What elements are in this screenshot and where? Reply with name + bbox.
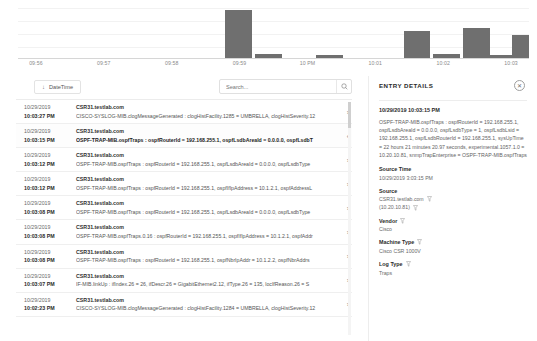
row-content: CSR31.testlab.comOSPF-TRAP-MIB.ospfTraps… <box>72 199 340 216</box>
row-datetime: 10/29/201910:03:12 PM <box>20 175 72 192</box>
detail-label-text: Log Type <box>379 261 403 267</box>
search-box[interactable] <box>219 79 352 94</box>
divider <box>379 100 527 101</box>
search-input[interactable] <box>220 84 336 90</box>
row-time: 10:03:12 PM <box>24 184 72 193</box>
entry-details-title: ENTRY DETAILS <box>379 82 433 89</box>
table-row[interactable]: 10/29/201910:02:23 PMCSR31.testlab.comCI… <box>16 293 352 317</box>
row-host: CSR31.testlab.com <box>76 199 340 208</box>
row-content: CSR31.testlab.comOSPF-TRAP-MIB.ospfTraps… <box>72 175 340 192</box>
row-datetime: 10/29/201910:02:23 PM <box>20 296 72 313</box>
row-datetime: 10/29/201910:03:08 PM <box>20 248 72 265</box>
column-header-datetime[interactable]: ↓ DateTime <box>34 80 81 94</box>
chart-tick-label: 09:56 <box>29 60 42 66</box>
chart-tick-label: 10:02 <box>436 60 449 66</box>
row-message: CISCO-SYSLOG-MIB.clogMessageGenerated : … <box>76 112 340 121</box>
row-date: 10/29/2019 <box>24 127 72 136</box>
detail-field-label: Source Time <box>379 166 527 172</box>
detail-field-value: Cisco <box>379 225 527 233</box>
row-datetime: 10/29/201910:03:12 PM <box>20 151 72 168</box>
row-message: OSPF-TRAP-MIB.ospfTraps.0.16 : ospfRoute… <box>76 232 340 241</box>
row-host: CSR31.testlab.com <box>76 272 340 281</box>
chart-bar[interactable] <box>225 10 252 58</box>
table-row[interactable]: 10/29/201910:03:27 PMCSR31.testlab.comCI… <box>16 100 352 124</box>
row-content: CSR31.testlab.comCISCO-SYSLOG-MIB.clogMe… <box>72 103 340 120</box>
detail-label-text: Source Time <box>379 166 411 172</box>
detail-field: VendorCisco <box>379 218 527 234</box>
detail-label-text: Machine Type <box>379 239 414 245</box>
detail-field: Machine TypeCisco CSR 1000V <box>379 239 527 255</box>
detail-field: Log TypeTraps <box>379 261 527 277</box>
list-scrollbar-thumb[interactable] <box>348 102 351 128</box>
detail-value-text: 10/29/2019 3:03:15 PM <box>379 174 433 182</box>
log-entry-list[interactable]: 10/29/201910:03:27 PMCSR31.testlab.comCI… <box>16 99 352 337</box>
row-date: 10/29/2019 <box>24 199 72 208</box>
chart-bar[interactable] <box>512 35 529 58</box>
chart-x-tick-labels: 09:5609:5709:5809:5910 PM10:0110:0210:03 <box>18 60 529 74</box>
table-row[interactable]: 10/29/201910:03:12 PMCSR31.testlab.comOS… <box>16 172 352 196</box>
row-date: 10/29/2019 <box>24 151 72 160</box>
chart-bar[interactable] <box>404 31 431 58</box>
row-datetime: 10/29/201910:03:27 PM <box>20 103 72 120</box>
chart-tick-label: 09:59 <box>233 60 246 66</box>
row-date: 10/29/2019 <box>24 223 72 232</box>
row-datetime: 10/29/201910:03:15 PM <box>20 127 72 144</box>
row-host: CSR31.testlab.com <box>76 296 340 305</box>
row-datetime: 10/29/201910:03:08 PM <box>20 223 72 240</box>
chart-tick-label: 10:03 <box>504 60 517 66</box>
row-host: CSR31.testlab.com <box>76 248 340 257</box>
detail-field-label: Machine Type <box>379 239 527 245</box>
row-datetime: 10/29/201910:03:08 PM <box>20 199 72 216</box>
row-content: CSR31.testlab.comIF-MIB.linkUp : ifIndex… <box>72 272 340 289</box>
detail-field: SourceCSR31.testlab.com(10.20.10.81) <box>379 188 527 212</box>
row-content: CSR31.testlab.comOSPF-TRAP-MIB.ospfTraps… <box>72 248 340 265</box>
row-content: CSR31.testlab.comOSPF-TRAP-MIB.ospfTraps… <box>72 151 340 168</box>
row-time: 10:02:23 PM <box>24 304 72 313</box>
table-row[interactable]: 10/29/201910:03:08 PMCSR31.testlab.comOS… <box>16 245 352 269</box>
row-date: 10/29/2019 <box>24 248 72 257</box>
chart-bar[interactable] <box>463 28 490 58</box>
entry-message: OSPF-TRAP-MIB.ospfTraps : ospfRouterId =… <box>379 118 527 159</box>
list-scrollbar-track[interactable] <box>348 102 351 335</box>
detail-field-label: Log Type <box>379 261 527 267</box>
row-date: 10/29/2019 <box>24 272 72 281</box>
detail-value-text: CSR31.testlab.com <box>379 195 424 203</box>
activity-histogram[interactable]: 09:5609:5709:5809:5910 PM10:0110:0210:03 <box>0 0 537 76</box>
table-row[interactable]: 10/29/201910:03:15 PMCSR31.testlab.comOS… <box>16 124 352 148</box>
row-host: CSR31.testlab.com <box>76 103 340 112</box>
filter-icon[interactable] <box>400 218 405 224</box>
table-row[interactable]: 10/29/201910:03:07 PMCSR31.testlab.comIF… <box>16 269 352 293</box>
row-time: 10:03:08 PM <box>24 256 72 265</box>
row-content: CSR31.testlab.comOSPF-TRAP-MIB.ospfTraps… <box>72 223 340 240</box>
search-icon <box>341 83 348 90</box>
filter-icon[interactable] <box>406 261 411 267</box>
row-date: 10/29/2019 <box>24 296 72 305</box>
filter-icon[interactable] <box>417 239 422 245</box>
row-time: 10:03:08 PM <box>24 232 72 241</box>
detail-label-text: Vendor <box>379 218 397 224</box>
detail-field-value: Traps <box>379 269 527 277</box>
detail-field: Source Time10/29/2019 3:03:15 PM <box>379 166 527 182</box>
table-row[interactable]: 10/29/201910:03:08 PMCSR31.testlab.comOS… <box>16 196 352 220</box>
detail-value-text: Cisco <box>379 225 392 233</box>
chart-x-axis <box>18 58 529 59</box>
row-date: 10/29/2019 <box>24 175 72 184</box>
chart-bars <box>18 6 529 58</box>
row-time: 10:03:07 PM <box>24 280 72 289</box>
table-row[interactable]: 10/29/201910:03:08 PMCSR31.testlab.comOS… <box>16 220 352 244</box>
row-message: OSPF-TRAP-MIB.ospfTraps : ospfRouterId =… <box>76 208 340 217</box>
entry-details-header: ENTRY DETAILS ✕ <box>379 82 527 98</box>
log-viewer-app: 09:5609:5709:5809:5910 PM10:0110:0210:03… <box>0 0 537 341</box>
row-content: CSR31.testlab.comCISCO-SYSLOG-MIB.clogMe… <box>72 296 340 313</box>
chart-tick-label: 10:01 <box>369 60 382 66</box>
entry-timestamp: 10/29/2019 10:03:15 PM <box>379 107 527 113</box>
search-button[interactable] <box>336 80 351 93</box>
detail-value-text: Traps <box>379 269 392 277</box>
filter-icon[interactable] <box>427 196 432 202</box>
filter-icon[interactable] <box>413 205 418 211</box>
row-message: OSPF-TRAP-MIB.ospfTraps : ospfRouterId =… <box>76 184 340 193</box>
table-row[interactable]: 10/29/201910:03:12 PMCSR31.testlab.comOS… <box>16 148 352 172</box>
close-icon[interactable]: ✕ <box>514 80 525 91</box>
detail-field-value: Cisco CSR 1000V <box>379 247 527 255</box>
row-host: CSR31.testlab.com <box>76 223 340 232</box>
